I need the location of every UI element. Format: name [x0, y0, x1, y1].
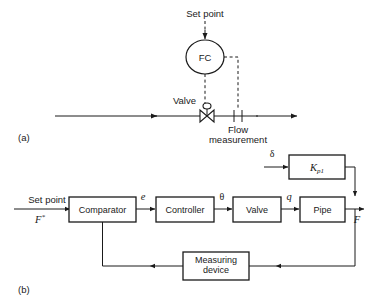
panel-a-caption: (a)	[18, 132, 30, 143]
figure-container: Set point FC Valve	[0, 0, 367, 303]
flow-controller-label: FC	[199, 52, 212, 63]
flow-measurement-label-line2: measurement	[209, 134, 267, 145]
panel-a: Set point FC Valve	[18, 8, 297, 145]
disturbance-symbol: δ	[270, 148, 275, 159]
error-signal-symbol: e	[141, 191, 146, 202]
process-output-symbol: F	[353, 214, 361, 225]
feedback-line-to-comparator	[103, 222, 151, 266]
valve-icon-left-wing	[200, 110, 207, 122]
valve-output-symbol: q	[286, 191, 291, 202]
block-measuring-device-label-line1: Measuring	[195, 255, 237, 265]
figure-canvas: Set point FC Valve	[0, 0, 367, 303]
valve-icon-actuator	[203, 103, 211, 109]
controller-output-symbol: θ	[220, 191, 225, 202]
panel-a-valve-label: Valve	[173, 95, 196, 106]
block-controller-label: Controller	[165, 205, 204, 215]
panel-b-caption: (b)	[18, 284, 30, 295]
panel-b: δ Kp1 Set point F* Comparator e Con	[14, 148, 364, 295]
block-valve-label: Valve	[246, 205, 268, 215]
flow-meter-to-controller-signal	[224, 57, 238, 110]
block-pipe-label: Pipe	[313, 205, 331, 215]
valve-icon-right-wing	[207, 110, 214, 122]
set-point-symbol: F*	[34, 213, 45, 225]
panel-a-set-point-label: Set point	[186, 8, 224, 19]
block-measuring-device-label-line2: device	[203, 265, 229, 275]
block-comparator-label: Comparator	[79, 205, 127, 215]
panel-b-set-point-label: Set point	[28, 194, 66, 205]
gain-to-output-line	[345, 167, 355, 196]
